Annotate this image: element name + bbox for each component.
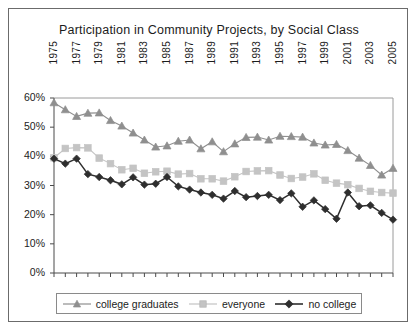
square-data-marker: [141, 170, 148, 177]
diamond-data-marker: [107, 177, 114, 184]
triangle-marker-icon: [62, 298, 92, 310]
legend-item-no-college[interactable]: no college: [274, 298, 356, 310]
square-data-marker: [73, 144, 80, 151]
diamond-data-marker: [141, 181, 148, 188]
series-line: [54, 159, 393, 220]
square-data-marker: [345, 181, 352, 188]
chart-container: Participation in Community Projects, by …: [8, 8, 408, 322]
square-data-marker: [96, 155, 103, 162]
legend-label: college graduates: [95, 298, 179, 310]
square-data-marker: [254, 168, 261, 175]
diamond-data-marker: [186, 186, 193, 193]
diamond-data-marker: [152, 180, 159, 187]
legend-item-everyone[interactable]: everyone: [188, 298, 265, 310]
triangle-data-marker: [310, 139, 318, 146]
square-data-marker: [107, 160, 114, 167]
square-data-marker: [62, 145, 69, 152]
square-data-marker: [186, 170, 193, 177]
square-data-marker: [198, 175, 205, 182]
series-college-graduates: [50, 99, 397, 178]
square-data-marker: [243, 168, 250, 175]
axes: [50, 98, 393, 277]
square-data-marker: [356, 185, 363, 192]
diamond-data-marker: [96, 173, 103, 180]
square-data-marker: [265, 167, 272, 174]
triangle-data-marker: [140, 136, 148, 143]
square-data-marker: [288, 175, 295, 182]
diamond-data-marker: [197, 189, 204, 196]
triangle-data-marker: [186, 136, 194, 143]
square-data-marker: [130, 165, 137, 172]
triangle-data-marker: [389, 164, 397, 171]
square-data-marker: [378, 189, 385, 196]
square-marker-icon: [188, 298, 218, 310]
triangle-data-marker: [344, 147, 352, 154]
data-series-group: [50, 99, 397, 224]
diamond-data-marker: [242, 193, 249, 200]
triangle-data-marker: [118, 122, 126, 129]
square-data-marker: [209, 175, 216, 182]
diamond-marker-icon: [274, 298, 304, 310]
square-data-marker: [311, 171, 318, 178]
diamond-data-marker: [209, 191, 216, 198]
triangle-data-marker: [333, 140, 341, 147]
diamond-data-marker: [265, 191, 272, 198]
diamond-data-marker: [276, 196, 283, 203]
square-data-marker: [175, 171, 182, 178]
square-data-marker: [152, 168, 159, 175]
legend-item-college-graduates[interactable]: college graduates: [62, 298, 179, 310]
square-data-marker: [390, 190, 397, 197]
legend-label: no college: [307, 298, 356, 310]
diamond-data-marker: [129, 174, 136, 181]
square-data-marker: [220, 178, 227, 185]
square-data-marker: [322, 177, 329, 184]
triangle-data-marker: [61, 106, 69, 113]
triangle-data-marker: [355, 154, 363, 161]
diamond-data-marker: [389, 216, 396, 223]
triangle-data-marker: [129, 129, 137, 136]
chart-legend: college graduates everyone no college: [56, 293, 362, 314]
square-data-marker: [277, 172, 284, 179]
series-line: [54, 103, 393, 175]
triangle-data-marker: [197, 145, 205, 152]
diamond-data-marker: [118, 181, 125, 188]
square-data-marker: [232, 173, 239, 180]
series-no-college: [50, 155, 396, 223]
triangle-data-marker: [231, 140, 239, 147]
legend-label: everyone: [221, 298, 265, 310]
square-data-marker: [119, 166, 126, 173]
square-data-marker: [367, 188, 374, 195]
square-data-marker: [333, 180, 340, 187]
triangle-data-marker: [208, 138, 216, 145]
square-data-marker: [85, 145, 92, 152]
plot-area: [9, 9, 409, 323]
triangle-data-marker: [50, 99, 58, 106]
triangle-data-marker: [366, 161, 374, 168]
diamond-data-marker: [62, 160, 69, 167]
triangle-data-marker: [163, 142, 171, 149]
triangle-data-marker: [107, 116, 115, 123]
diamond-data-marker: [254, 192, 261, 199]
square-data-marker: [299, 174, 306, 181]
